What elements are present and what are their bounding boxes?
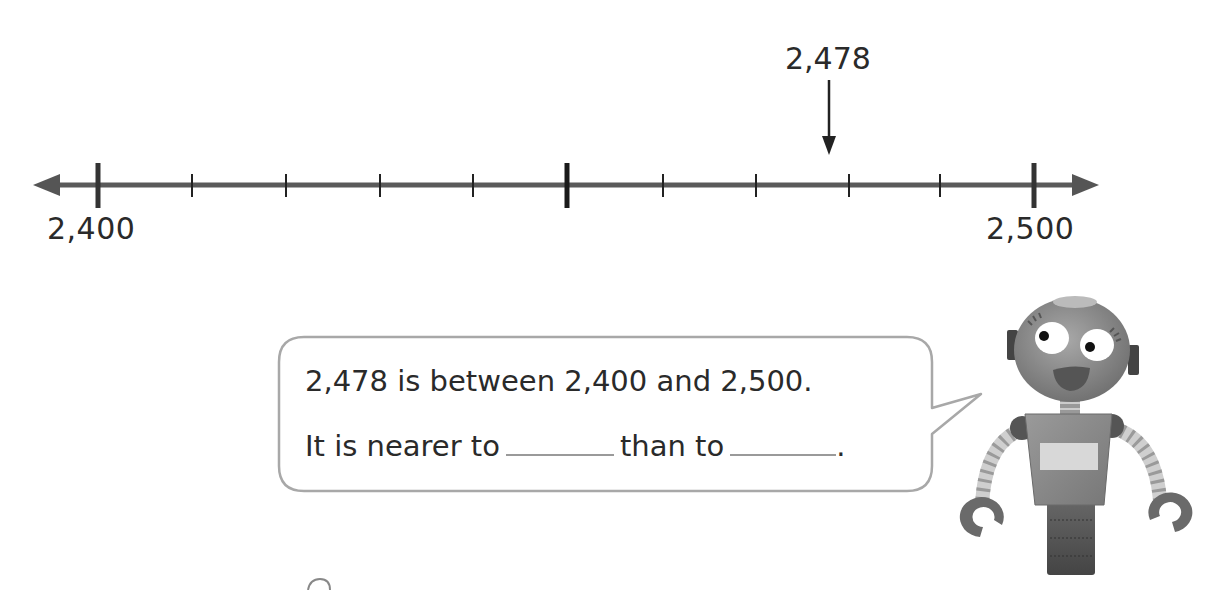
partial-glyph (300, 575, 340, 590)
bubble-line-2-part-1: It is nearer to (305, 429, 500, 463)
bubble-line-2-part-2: than to (620, 429, 724, 463)
robot-character (950, 285, 1212, 590)
robot-right-eye (1080, 329, 1114, 361)
robot-screen (1040, 443, 1098, 470)
answer-blank-1[interactable] (506, 448, 614, 456)
answer-blank-2[interactable] (730, 448, 836, 456)
robot-left-hand (960, 497, 1004, 537)
bubble-line-2-end: . (836, 429, 845, 463)
bubble-line-2: It is nearer tothan to. (305, 432, 845, 461)
robot-right-hand (1148, 492, 1192, 532)
bubble-line-1: 2,478 is between 2,400 and 2,500. (305, 367, 813, 396)
